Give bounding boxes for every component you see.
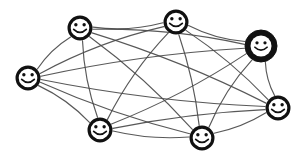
graph-edge [93, 23, 163, 29]
smiley-eye-icon [196, 133, 199, 136]
node-ring [191, 127, 213, 149]
smiley-eye-icon [272, 103, 275, 106]
node-ring [267, 97, 289, 119]
smiley-eye-icon [30, 73, 33, 76]
smiley-eye-icon [255, 41, 258, 44]
node-ring [69, 17, 91, 39]
graph-edge [39, 86, 90, 123]
smiley-eye-icon [102, 125, 105, 128]
edges-layer [37, 23, 274, 138]
node-ring [89, 119, 111, 141]
node-smiley-left[interactable] [17, 67, 39, 89]
graph-edge [179, 35, 199, 126]
smiley-eye-icon [82, 23, 85, 26]
smiley-eye-icon [170, 17, 173, 20]
smiley-eye-icon [74, 23, 77, 26]
graph-edge [113, 131, 189, 138]
network-graph [0, 0, 301, 160]
graph-canvas [0, 0, 301, 160]
smiley-eye-icon [94, 125, 97, 128]
node-smiley-bottom-center[interactable] [191, 127, 213, 149]
node-ring [165, 11, 187, 33]
node-smiley-bottom-left[interactable] [89, 119, 111, 141]
node-smiley-top-left[interactable] [69, 17, 91, 39]
graph-edge [214, 113, 266, 133]
graph-edge [41, 80, 265, 107]
node-inner-disc [251, 36, 272, 57]
graph-edge [265, 62, 274, 96]
smiley-eye-icon [22, 73, 25, 76]
smiley-eye-icon [178, 17, 181, 20]
node-smiley-top-center[interactable] [165, 11, 187, 33]
smiley-eye-icon [204, 133, 207, 136]
node-smiley-top-right[interactable] [245, 30, 277, 62]
graph-edge [40, 27, 164, 74]
node-smiley-right[interactable] [267, 97, 289, 119]
graph-edge [40, 82, 189, 134]
graph-edge [90, 37, 193, 130]
node-ring [17, 67, 39, 89]
smiley-eye-icon [263, 41, 266, 44]
graph-edge [37, 37, 70, 69]
smiley-eye-icon [280, 103, 283, 106]
